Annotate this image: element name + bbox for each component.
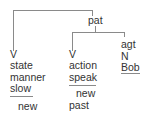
right-node-word-underline bbox=[121, 73, 140, 74]
right-branch-vline bbox=[124, 32, 125, 37]
middle-node-feature-new: new bbox=[76, 87, 95, 99]
middle-node-word: speak bbox=[69, 71, 97, 83]
left-node-feature-state: state bbox=[10, 59, 33, 71]
root-label: pat bbox=[88, 14, 103, 26]
middle-node-feature-action: action bbox=[69, 59, 97, 71]
left-node-word: slow bbox=[10, 82, 31, 94]
sub-hline bbox=[72, 32, 125, 33]
left-node-word-underline bbox=[10, 96, 33, 97]
left-node-feature-new: new bbox=[18, 100, 37, 112]
root-hline bbox=[13, 10, 93, 11]
right-node-role: agt bbox=[121, 38, 136, 50]
middle-node-word-underline bbox=[69, 85, 96, 86]
right-node-word: Bob bbox=[121, 61, 140, 73]
middle-node-feature-past: past bbox=[69, 99, 89, 111]
sub-root-tick bbox=[95, 26, 96, 32]
left-branch-vline bbox=[13, 10, 14, 51]
